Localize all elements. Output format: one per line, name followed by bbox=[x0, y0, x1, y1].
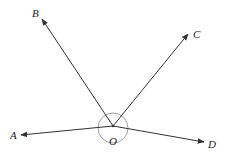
label-a: A bbox=[9, 129, 17, 141]
ray-oc bbox=[113, 34, 188, 126]
label-d: D bbox=[207, 138, 216, 150]
ray-ob bbox=[42, 19, 113, 126]
vertex-point bbox=[112, 125, 115, 128]
angle-diagram: A B C D O bbox=[0, 0, 228, 165]
label-o: O bbox=[109, 135, 117, 147]
label-b: B bbox=[32, 7, 39, 19]
label-c: C bbox=[193, 28, 201, 40]
